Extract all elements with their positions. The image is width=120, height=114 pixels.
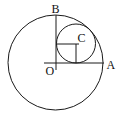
label-c: C (78, 31, 86, 45)
geometry-diagram: B C O A (0, 0, 120, 114)
label-b: B (52, 2, 60, 16)
label-o: O (46, 64, 55, 78)
label-a: A (107, 58, 116, 72)
